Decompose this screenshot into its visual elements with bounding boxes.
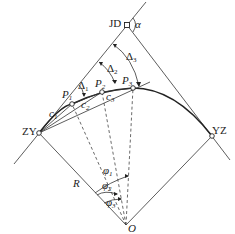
delta2-arrow (112, 80, 117, 84)
label-c2: c2 (81, 98, 90, 112)
label-phi2: φ2 (102, 179, 112, 193)
label-zy: ZY (22, 125, 37, 137)
label-phi3: φ3 (106, 196, 116, 210)
label-delta3: Δ3 (126, 50, 137, 64)
label-c1: c1 (49, 107, 57, 121)
label-delta2: Δ2 (107, 62, 118, 76)
label-delta1: Δ1 (78, 79, 89, 93)
point-p1 (70, 102, 75, 107)
label-yz: YZ (212, 124, 227, 136)
point-zy (37, 131, 42, 136)
label-c3: c3 (106, 90, 115, 104)
circular-curve-diagram: JD α ZY YZ O R P1 P2 P3 Δ1 Δ2 Δ3 c1 c2 c… (0, 0, 235, 234)
label-p2: P2 (94, 77, 106, 91)
tangent-line-jd-yz (127, 25, 230, 160)
delta3-arrow-start (113, 44, 117, 48)
label-alpha: α (135, 18, 141, 30)
phi2-arrow (114, 192, 118, 196)
delta1-arrow (82, 93, 86, 97)
label-o: O (128, 222, 136, 234)
radius-zy-o (39, 133, 126, 225)
label-p3: P3 (121, 74, 133, 88)
delta2-arrow-start (99, 62, 103, 66)
dashed-radius-p1 (72, 104, 126, 225)
label-r: R (72, 177, 80, 189)
label-phi1: φ1 (103, 164, 113, 178)
dashed-radius-p3 (126, 88, 133, 225)
point-jd (125, 23, 130, 28)
label-p1: P1 (61, 88, 72, 102)
radius-yz-o (126, 136, 212, 225)
label-jd: JD (109, 17, 121, 29)
